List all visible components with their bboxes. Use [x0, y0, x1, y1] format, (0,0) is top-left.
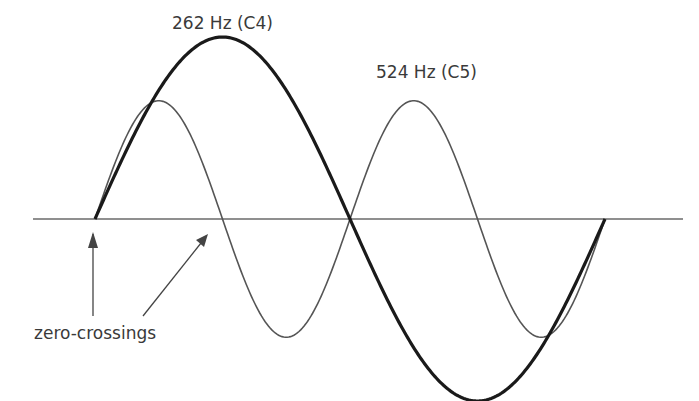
label-c4: 262 Hz (C4) — [172, 13, 273, 33]
arrowhead-icon — [196, 234, 208, 247]
arrowhead-icon — [88, 232, 98, 248]
label-zero-crossings: zero-crossings — [34, 323, 156, 343]
arrow-zero-crossing-2 — [143, 238, 205, 316]
label-c5: 524 Hz (C5) — [376, 62, 477, 82]
